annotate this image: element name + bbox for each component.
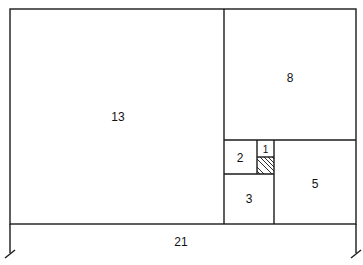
label-8: 8 (287, 71, 294, 85)
label-1: 1 (263, 144, 269, 155)
hatched-square (246, 155, 289, 174)
label-3: 3 (246, 192, 253, 206)
label-21: 21 (174, 235, 188, 249)
label-2: 2 (237, 151, 244, 165)
label-5: 5 (312, 177, 319, 191)
outer-rectangle (10, 9, 356, 224)
label-13: 13 (111, 110, 125, 124)
fibonacci-diagram: 13 8 5 3 2 1 21 (0, 0, 363, 265)
